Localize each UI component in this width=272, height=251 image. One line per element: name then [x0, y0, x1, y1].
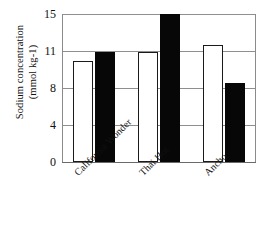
y-tick-label-15: 15	[34, 8, 56, 20]
bar-white-series-1	[138, 52, 158, 162]
bars-layer	[62, 14, 256, 162]
bar-black-series-2	[225, 83, 245, 162]
bar-chart: Sodium concentration (mmol kg-1) 0481115…	[0, 0, 272, 251]
y-tick-label-8: 8	[34, 82, 56, 94]
bar-white-series-2	[203, 45, 223, 162]
y-axis-title-line-1: Sodium concentration	[13, 25, 26, 119]
y-tick-label-0: 0	[34, 156, 56, 168]
x-axis-category-labels: California WonderThai HotAncho	[62, 164, 256, 248]
bar-black-series-1	[160, 14, 180, 162]
plot-area	[62, 14, 256, 162]
y-tick-label-11: 11	[34, 45, 56, 57]
bar-white-series-0	[73, 61, 93, 162]
y-tick-label-4: 4	[34, 119, 56, 131]
